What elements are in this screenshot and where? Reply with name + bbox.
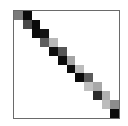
heatmap-cell xyxy=(110,109,119,118)
heatmap-grid xyxy=(14,11,119,118)
heatmap-cell xyxy=(14,11,23,20)
heatmap-cell xyxy=(67,65,76,74)
heatmap-cell xyxy=(75,65,84,74)
heatmap-cell xyxy=(40,29,49,38)
heatmap-cell xyxy=(84,73,93,82)
heatmap-cell xyxy=(75,73,84,82)
heatmap-cell xyxy=(102,100,111,109)
heatmap-cell xyxy=(23,11,32,20)
heatmap-cell xyxy=(67,56,76,65)
heatmap-cell xyxy=(93,91,102,100)
heatmap-cell xyxy=(58,47,67,56)
heatmap-cell xyxy=(58,56,67,65)
heatmap-cell xyxy=(110,100,119,109)
heatmap-cell xyxy=(32,20,41,29)
heatmap-frame xyxy=(13,10,120,119)
heatmap-cell xyxy=(23,20,32,29)
heatmap-cell xyxy=(49,38,58,47)
heatmap-cell xyxy=(93,82,102,91)
heatmap-cell xyxy=(49,47,58,56)
heatmap-cell xyxy=(40,38,49,47)
heatmap-cell xyxy=(102,91,111,100)
heatmap-cell xyxy=(32,29,41,38)
heatmap-cell xyxy=(84,82,93,91)
